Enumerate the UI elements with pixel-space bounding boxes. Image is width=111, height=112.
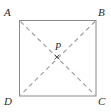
figure-canvas (0, 0, 111, 112)
point-label-p: P (55, 42, 61, 52)
vertex-label-c: C (98, 96, 105, 107)
geometry-figure: A B C D P (0, 0, 111, 112)
vertex-label-b: B (98, 7, 105, 18)
vertex-label-d: D (4, 96, 12, 107)
vertex-label-a: A (4, 7, 11, 18)
